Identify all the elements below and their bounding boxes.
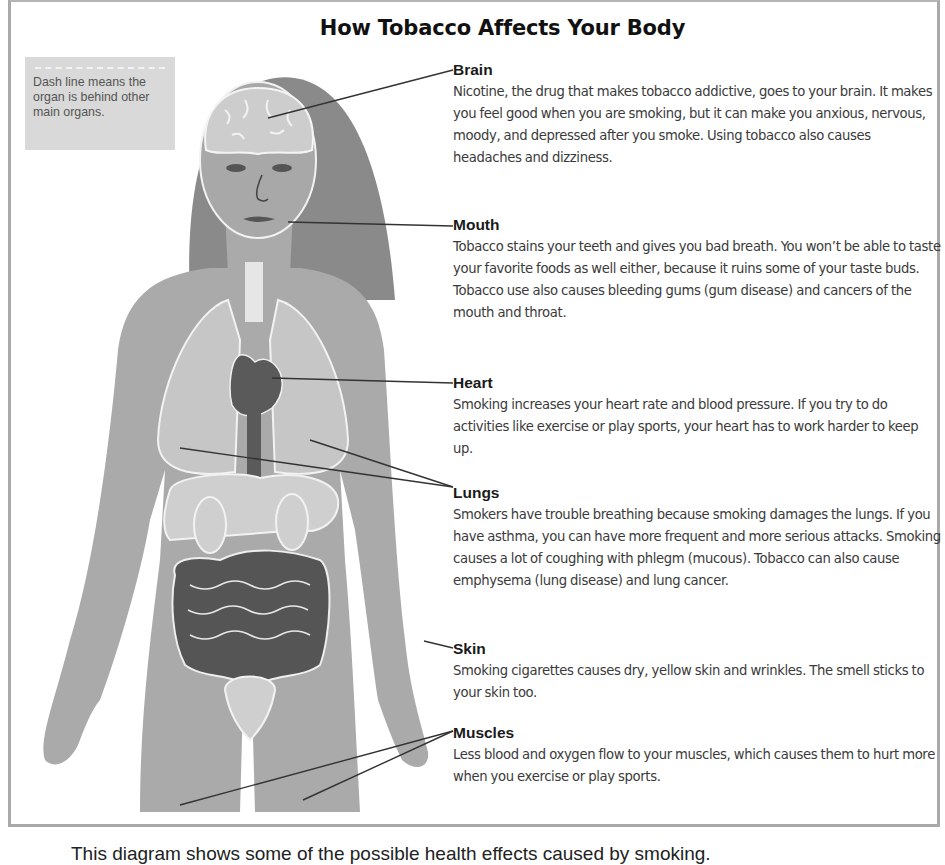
- section-muscles: Muscles Less blood and oxygen flow to yo…: [453, 724, 941, 788]
- section-body: Smoking increases your heart rate and bl…: [453, 394, 941, 460]
- left-kidney: [194, 497, 226, 553]
- section-body: Less blood and oxygen flow to your muscl…: [453, 744, 941, 788]
- section-body: Tobacco stains your teeth and gives you …: [453, 236, 941, 324]
- right-eye: [272, 164, 292, 172]
- section-heading: Brain: [453, 61, 941, 79]
- liver-stomach: [164, 474, 338, 540]
- section-heading: Lungs: [453, 484, 941, 502]
- left-eye: [226, 164, 246, 172]
- intestines: [172, 551, 329, 690]
- dash-line-sample: [35, 67, 165, 69]
- section-mouth: Mouth Tobacco stains your teeth and give…: [453, 216, 941, 324]
- section-body: Nicotine, the drug that makes tobacco ad…: [453, 81, 941, 169]
- section-body: Smoking cigarettes causes dry, yellow sk…: [453, 660, 941, 704]
- leader-line-skin: [424, 641, 453, 648]
- section-heading: Skin: [453, 640, 941, 658]
- section-lungs: Lungs Smokers have trouble breathing bec…: [453, 484, 941, 592]
- section-skin: Skin Smoking cigarettes causes dry, yell…: [453, 640, 941, 704]
- section-heading: Mouth: [453, 216, 941, 234]
- section-heading: Muscles: [453, 724, 941, 742]
- section-body: Smokers have trouble breathing because s…: [453, 504, 941, 592]
- diagram-caption: This diagram shows some of the possible …: [71, 843, 711, 865]
- right-kidney: [276, 494, 308, 550]
- section-brain: Brain Nicotine, the drug that makes toba…: [453, 61, 941, 169]
- legend-text: Dash line means the organ is behind othe…: [33, 75, 167, 120]
- section-heading: Heart: [453, 374, 941, 392]
- dash-line-legend: Dash line means the organ is behind othe…: [25, 57, 175, 150]
- aorta: [247, 410, 261, 480]
- section-heart: Heart Smoking increases your heart rate …: [453, 374, 941, 460]
- trachea: [245, 262, 263, 322]
